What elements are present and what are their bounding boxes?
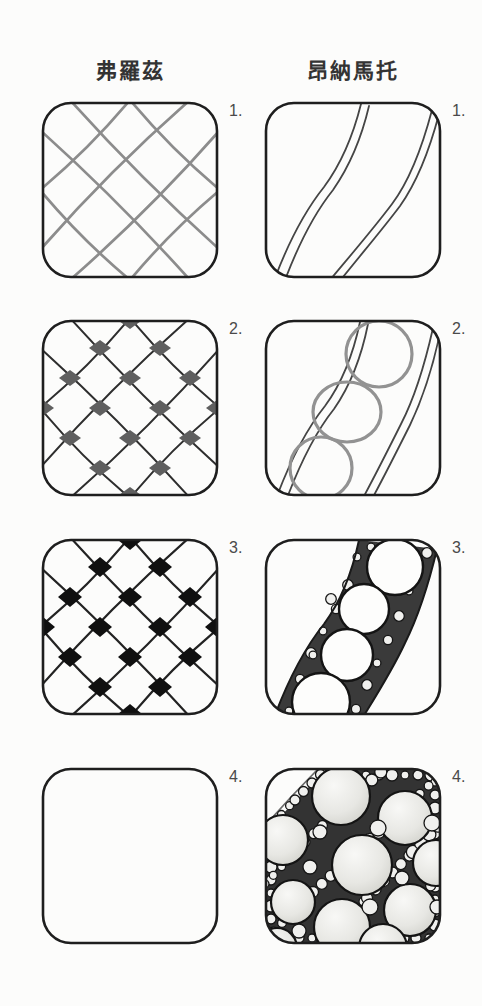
- column-title-florz: 弗羅茲: [40, 54, 220, 84]
- onamato-step2-drawing: [263, 318, 443, 498]
- column-title-onamato: 昂納馬托: [263, 54, 443, 84]
- step-number: 4.: [229, 768, 242, 786]
- florz-step-2: 2.: [40, 318, 220, 498]
- onamato-step-1: 1.: [263, 100, 443, 280]
- step-number: 2.: [452, 320, 465, 338]
- florz-step-3: 3.: [40, 537, 220, 717]
- onamato-step-2: 2.: [263, 318, 443, 498]
- step-number: 1.: [452, 102, 465, 120]
- florz-step-4: 4.: [40, 766, 220, 946]
- step-number: 4.: [452, 768, 465, 786]
- tutorial-page: 弗羅茲 昂納馬托 1.: [0, 0, 482, 1006]
- step-number: 1.: [229, 102, 242, 120]
- florz-step2-drawing: [40, 318, 220, 498]
- onamato-step4-drawing: [263, 766, 443, 946]
- onamato-step1-drawing: [263, 100, 443, 280]
- florz-step1-drawing: [40, 100, 220, 280]
- florz-step-1: 1.: [40, 100, 220, 280]
- step-number: 2.: [229, 320, 242, 338]
- onamato-step-4: 4.: [263, 766, 443, 946]
- onamato-step-3: 3.: [263, 537, 443, 717]
- onamato-step3-drawing: [263, 537, 443, 717]
- florz-step4-drawing: [40, 766, 220, 946]
- step-number: 3.: [229, 539, 242, 557]
- florz-step3-drawing: [40, 537, 220, 717]
- step-number: 3.: [452, 539, 465, 557]
